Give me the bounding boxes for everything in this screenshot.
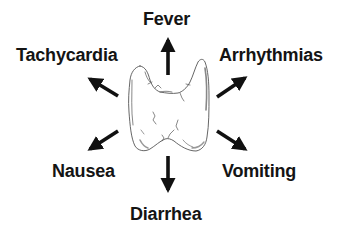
diagram-graphics bbox=[0, 0, 341, 235]
label-nausea: Nausea bbox=[52, 162, 115, 180]
arrow-down-left-icon bbox=[90, 131, 118, 149]
arrow-up-right-icon bbox=[217, 78, 245, 97]
label-arrhythmias: Arrhythmias bbox=[219, 46, 323, 64]
arrow-down-right-icon bbox=[217, 131, 245, 149]
label-diarrhea: Diarrhea bbox=[130, 205, 201, 223]
label-vomiting: Vomiting bbox=[222, 162, 296, 180]
label-tachycardia: Tachycardia bbox=[16, 46, 118, 64]
label-fever: Fever bbox=[143, 10, 190, 28]
thyroid-symptoms-diagram: Fever Tachycardia Arrhythmias Nausea Vom… bbox=[0, 0, 341, 235]
arrow-up-left-icon bbox=[90, 79, 118, 96]
